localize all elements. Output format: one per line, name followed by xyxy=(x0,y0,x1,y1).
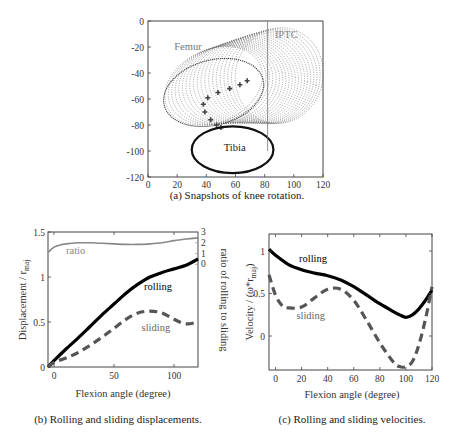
series-sliding xyxy=(48,311,198,367)
svg-text:1: 1 xyxy=(201,249,206,259)
annotations: rollingsliding xyxy=(296,253,327,321)
panel-a-knee-snapshots: 0204060801001200-20-40-60-80-100-120 Fem… xyxy=(127,17,334,203)
svg-text:120: 120 xyxy=(316,180,331,190)
svg-text:IPTC: IPTC xyxy=(275,29,298,40)
series-lines xyxy=(269,249,432,367)
svg-text:-100: -100 xyxy=(127,147,145,157)
caption-b: (b) Rolling and sliding displacements. xyxy=(34,413,202,426)
figure: 0204060801001200-20-40-60-80-100-120 Fem… xyxy=(0,0,459,441)
svg-text:sliding: sliding xyxy=(296,310,325,321)
x-axis-label: Flexion angle (degree) xyxy=(304,389,400,401)
y-axis-label: Velocity / (ω*rmaj) xyxy=(244,263,258,341)
svg-text:-120: -120 xyxy=(127,173,145,183)
femur-snapshot-ellipses xyxy=(152,18,334,141)
svg-text:ratio: ratio xyxy=(66,245,85,256)
svg-text:100: 100 xyxy=(167,371,182,381)
svg-text:0: 0 xyxy=(273,374,278,384)
svg-text:120: 120 xyxy=(425,374,440,384)
series-rolling xyxy=(48,259,198,367)
svg-text:Tibia: Tibia xyxy=(224,142,246,153)
svg-text:0: 0 xyxy=(146,180,151,190)
series-lines xyxy=(48,238,198,367)
svg-text:-20: -20 xyxy=(131,43,144,53)
svg-text:100: 100 xyxy=(399,374,414,384)
caption-c: (c) Rolling and sliding velocities. xyxy=(279,413,426,426)
annotations: FemurIPTCTibia xyxy=(174,29,297,153)
svg-text:60: 60 xyxy=(349,374,359,384)
svg-text:40: 40 xyxy=(323,374,333,384)
annotations: ratiorollingsliding xyxy=(66,245,173,333)
svg-text:20: 20 xyxy=(297,374,307,384)
svg-text:0: 0 xyxy=(52,371,57,381)
svg-text:1: 1 xyxy=(260,247,265,257)
y-axis-label: Displacement / rmaj xyxy=(17,260,31,341)
series-sliding xyxy=(269,275,432,367)
svg-text:2: 2 xyxy=(201,238,206,248)
svg-text:0: 0 xyxy=(139,17,144,27)
svg-text:80: 80 xyxy=(375,374,385,384)
svg-text:1: 1 xyxy=(40,273,45,283)
svg-text:0: 0 xyxy=(260,332,265,342)
svg-text:sliding: sliding xyxy=(142,322,171,333)
svg-text:0: 0 xyxy=(201,259,206,269)
caption-a: (a) Snapshots of knee rotation. xyxy=(170,189,305,202)
svg-text:1.5: 1.5 xyxy=(33,228,45,238)
svg-text:0.5: 0.5 xyxy=(33,318,45,328)
contact-path-markers xyxy=(201,78,250,130)
svg-text:0: 0 xyxy=(40,363,45,373)
plot-frame xyxy=(269,234,432,370)
axis-ticks: 0204060801001200-20-40-60-80-100-120 xyxy=(127,17,331,191)
panel-b-displacements: 05010000.511.50123 ratiorollingsliding F… xyxy=(17,227,230,426)
panel-c-velocities: 02040608010012000.51 rollingsliding Flex… xyxy=(244,234,439,426)
svg-text:Femur: Femur xyxy=(174,41,202,52)
svg-text:rolling: rolling xyxy=(299,253,328,264)
svg-text:-40: -40 xyxy=(131,69,144,79)
y2-axis-label: ratio of rolling to sliding xyxy=(219,248,230,352)
svg-text:50: 50 xyxy=(109,371,119,381)
x-axis-label: Flexion angle (degree) xyxy=(75,388,171,400)
svg-text:-80: -80 xyxy=(131,121,144,131)
svg-text:-60: -60 xyxy=(131,95,144,105)
svg-text:rolling: rolling xyxy=(144,281,173,292)
svg-text:3: 3 xyxy=(201,227,206,237)
